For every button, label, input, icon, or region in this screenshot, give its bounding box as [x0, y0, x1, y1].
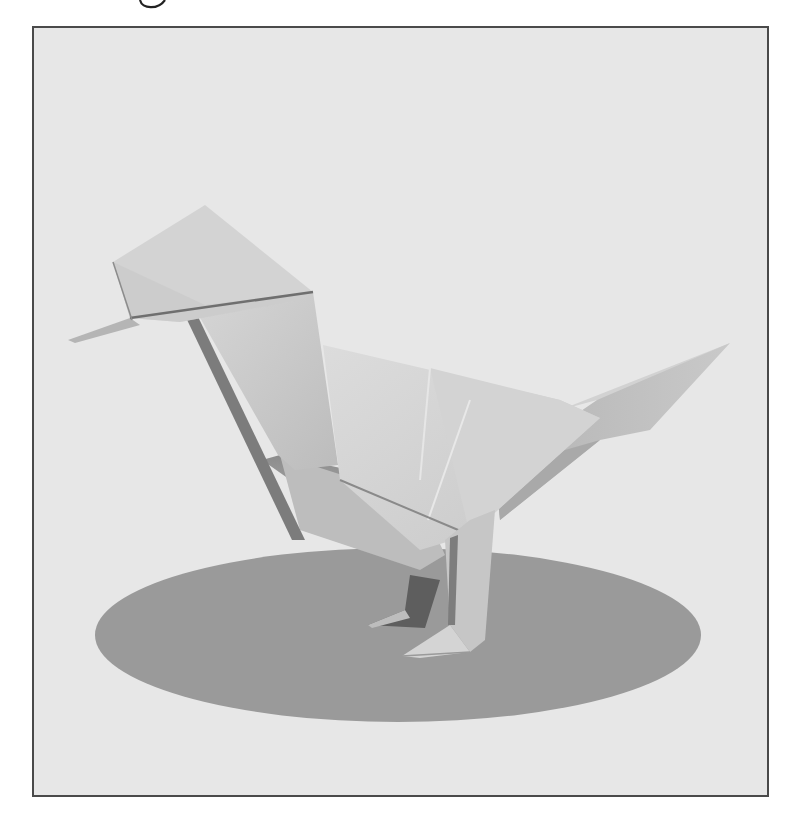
neck	[190, 292, 338, 470]
origami-bird-photo	[0, 0, 795, 821]
shadow-ellipse	[95, 548, 701, 722]
